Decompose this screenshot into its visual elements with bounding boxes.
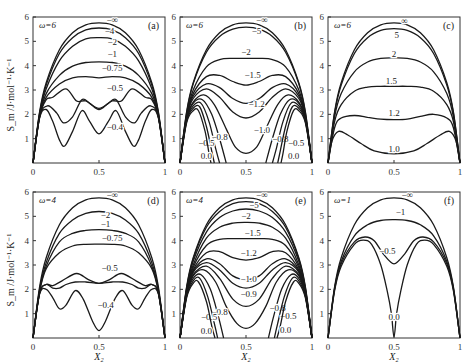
- curve-label: 5: [394, 30, 399, 40]
- y-tick-label: 2: [25, 109, 30, 119]
- curve-label: −∞: [256, 190, 268, 200]
- curve-label: ∞: [401, 16, 407, 26]
- data-curve: [33, 62, 165, 163]
- x-tick-label: 0: [326, 167, 331, 177]
- curve-label: −0.4: [107, 122, 124, 132]
- y-tick-label: 4: [172, 61, 177, 71]
- x-tick-label: 0: [31, 342, 36, 352]
- curve-label: 0.0: [388, 312, 400, 322]
- y-tick-label: 3: [172, 260, 177, 270]
- y-tick-label: 1: [25, 134, 30, 144]
- x-tick-label: 0: [326, 342, 331, 352]
- x-axis-label-d: X₂: [93, 351, 104, 362]
- data-curve: [33, 244, 165, 338]
- curve-label: 0.0: [280, 325, 292, 335]
- data-curve: [33, 198, 165, 338]
- panel-letter: (f): [444, 195, 454, 207]
- y-tick-label: 5: [25, 36, 30, 46]
- y-tick-label: 4: [25, 236, 30, 246]
- panel-e: 12345600.51ω=4(e)−∞−5−2−1.5−1.2−1.0−0.9−…: [172, 187, 315, 352]
- curve-label: −1.5: [244, 70, 261, 80]
- data-curve: [33, 288, 165, 338]
- panel-letter: (c): [443, 20, 454, 32]
- omega-label: ω=4: [186, 195, 203, 205]
- y-tick-label: 5: [172, 211, 177, 221]
- curve-label: −0.5: [101, 263, 118, 273]
- curve-label: −0.75: [102, 63, 123, 73]
- x-tick-label: 1: [458, 167, 463, 177]
- data-curve: [33, 77, 165, 163]
- y-tick-label: 5: [320, 211, 325, 221]
- panel-d: 12345600.51ω=4(d)−∞−2−1−0.75−0.5−0.4: [25, 187, 168, 352]
- y-tick-label: 6: [320, 187, 325, 197]
- curve-label: −4: [105, 26, 115, 36]
- curve-label: −∞: [106, 15, 118, 25]
- panel-a: 12345600.51ω=6(a)−∞−4−2−1−0.75−0.5−0.4: [25, 12, 168, 177]
- y-tick-label: 4: [320, 61, 325, 71]
- y-tick-label: 1: [320, 134, 325, 144]
- data-curve: [33, 38, 165, 163]
- curve-label: −1: [107, 49, 117, 59]
- y-tick-label: 1: [172, 134, 177, 144]
- y-tick-label: 1: [25, 309, 30, 319]
- curve-label: −∞: [256, 15, 268, 25]
- curve-label: −2: [241, 211, 251, 221]
- x-tick-label: 1: [163, 167, 168, 177]
- y-tick-label: 1: [320, 309, 325, 319]
- panel-letter: (a): [148, 20, 159, 32]
- curve-label: 1.2: [388, 108, 399, 118]
- y-tick-label: 2: [172, 284, 177, 294]
- plot-frame: [33, 192, 165, 338]
- y-tick-label: 3: [25, 260, 30, 270]
- data-curve: [33, 212, 165, 339]
- y-tick-label: 4: [320, 236, 325, 246]
- y-tick-label: 5: [25, 211, 30, 221]
- y-tick-label: 5: [172, 36, 177, 46]
- y-tick-label: 1: [172, 309, 177, 319]
- x-tick-label: 0.5: [388, 167, 400, 177]
- data-curve: [33, 109, 165, 163]
- y-tick-label: 6: [172, 12, 177, 22]
- panel-b: 12345600.51ω=6(b)−∞−5−2−1.5−1.2−1.0−0.8−…: [172, 12, 315, 177]
- omega-label: ω=1: [334, 195, 351, 205]
- x-axis-label-e: X₂: [240, 351, 251, 362]
- x-tick-label: 0.5: [93, 167, 105, 177]
- panel-f: 12345600.51ω=1(f)−∞−1−0.50.0: [320, 187, 463, 352]
- curve-label: −2: [107, 37, 117, 47]
- curve-label: −0.9: [240, 289, 257, 299]
- curve-label: −0.4: [97, 300, 114, 310]
- x-tick-label: 1: [310, 167, 315, 177]
- curve-label: −1.5: [244, 228, 261, 238]
- curve-label: 2: [392, 49, 397, 59]
- panels-group: 12345600.51ω=6(a)−∞−4−2−1−0.75−0.5−0.412…: [25, 12, 463, 352]
- x-tick-label: 1: [458, 342, 463, 352]
- x-axis-label-f: X₂: [388, 351, 399, 362]
- curve-label: 1.5: [386, 76, 398, 86]
- omega-label: ω=6: [39, 20, 56, 30]
- y-tick-label: 2: [172, 109, 177, 119]
- curve-label: −0.75: [102, 233, 123, 243]
- omega-label: ω=6: [334, 20, 351, 30]
- panel-letter: (b): [294, 20, 306, 32]
- y-axis-label-top: S_m /J·mol⁻¹·K⁻¹: [5, 59, 16, 132]
- y-axis-label-bottom: S_m /J·mol⁻¹·K⁻¹: [5, 234, 16, 307]
- curve-label: 0.0: [201, 151, 213, 161]
- curve-label: −5: [252, 26, 262, 36]
- panel-letter: (e): [295, 195, 306, 207]
- panel-letter: (d): [147, 195, 159, 207]
- y-tick-label: 2: [25, 284, 30, 294]
- data-curve: [33, 89, 165, 163]
- curve-label: −5: [249, 200, 259, 210]
- curve-label: −1: [396, 207, 406, 217]
- curve-label: −1: [101, 219, 111, 229]
- data-curve: [328, 23, 460, 163]
- x-tick-label: 1: [163, 342, 168, 352]
- curve-label: 1.0: [388, 144, 400, 154]
- data-curve: [33, 28, 165, 163]
- curve-label: −2: [241, 47, 251, 57]
- curve-label: −0.5: [288, 138, 305, 148]
- data-curve: [33, 23, 165, 163]
- x-tick-label: 0: [178, 167, 183, 177]
- y-tick-label: 3: [172, 85, 177, 95]
- panel-c: 12345600.51ω=6(c)∞521.51.21.0: [320, 12, 463, 177]
